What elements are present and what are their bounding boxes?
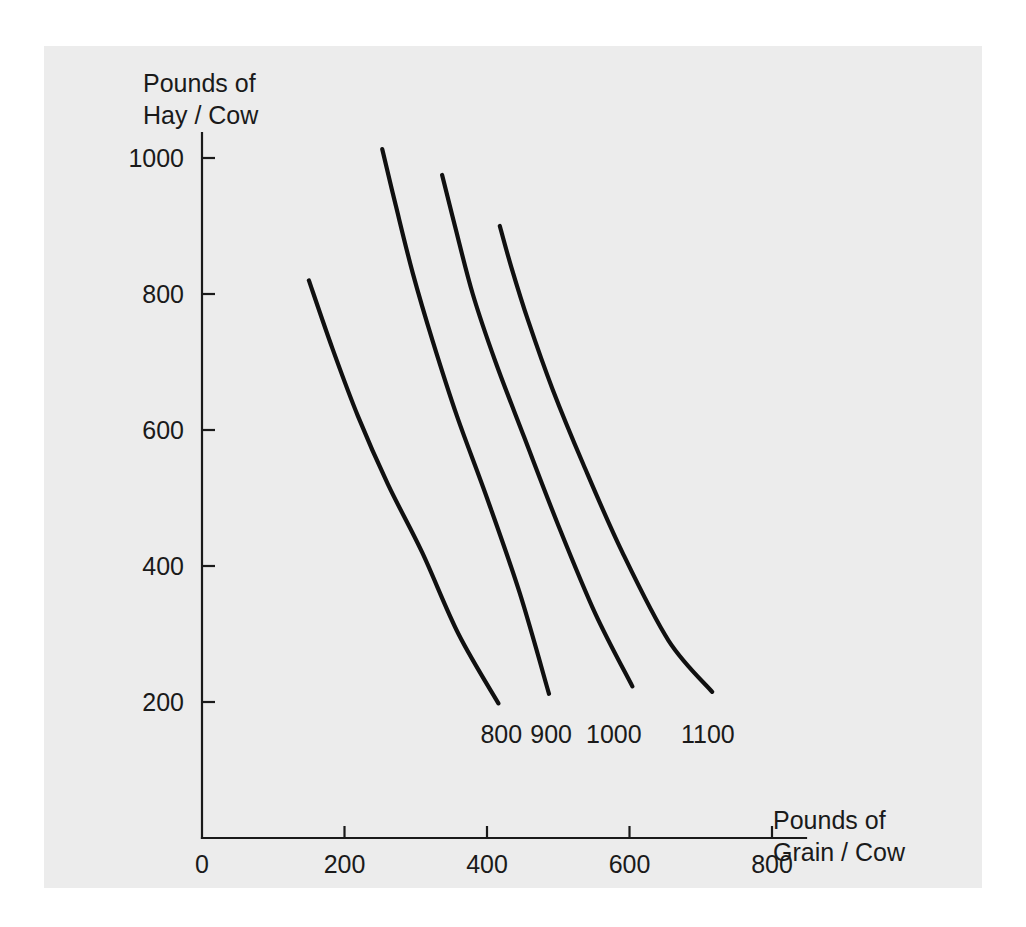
iso-curve-group [309, 149, 712, 703]
x-axis-title-line2: Grain / Cow [773, 838, 906, 866]
x-tick-label: 0 [195, 850, 209, 878]
iso-curve-1000 [442, 175, 632, 686]
curve-label-1000: 1000 [586, 720, 642, 748]
y-tick-label: 600 [142, 416, 184, 444]
iso-curve-900 [382, 149, 549, 694]
curve-label-900: 900 [530, 720, 572, 748]
y-tick-label: 400 [142, 552, 184, 580]
x-tick-label: 600 [609, 850, 651, 878]
x-tick-group: 0200400600800 [195, 826, 793, 878]
x-axis-title-line1: Pounds of [773, 806, 886, 834]
curve-label-1100: 1100 [681, 720, 735, 748]
x-tick-label: 400 [466, 850, 508, 878]
y-tick-label: 800 [142, 280, 184, 308]
y-tick-label: 200 [142, 688, 184, 716]
x-tick-label: 200 [324, 850, 366, 878]
curve-label-group: 80090010001100 [480, 720, 734, 748]
y-axis-title-line2: Hay / Cow [143, 101, 259, 129]
figure-root: 2004006008001000 0200400600800 800900100… [0, 0, 1026, 927]
curve-label-800: 800 [480, 720, 522, 748]
y-axis-title-line1: Pounds of [143, 69, 256, 97]
y-tick-label: 1000 [128, 144, 184, 172]
iso-curve-800 [309, 280, 499, 703]
chart-canvas: 2004006008001000 0200400600800 800900100… [0, 0, 1026, 927]
